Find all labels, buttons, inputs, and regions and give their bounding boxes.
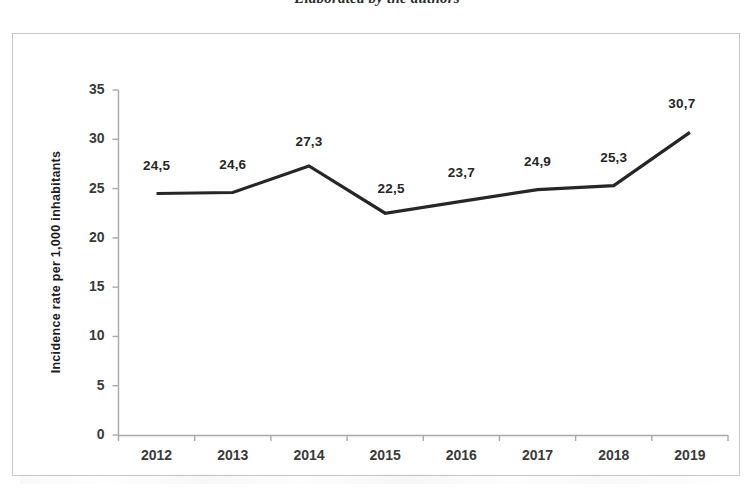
data-point-label: 24,5 bbox=[122, 158, 192, 173]
x-tick-label: 2012 bbox=[117, 447, 197, 463]
y-tick-label: 25 bbox=[65, 180, 105, 196]
y-tick-label: 15 bbox=[65, 278, 105, 294]
x-tick-label: 2014 bbox=[269, 447, 349, 463]
x-tick-label: 2013 bbox=[193, 447, 273, 463]
y-tick-label: 35 bbox=[65, 81, 105, 97]
data-point-label: 23,7 bbox=[426, 165, 496, 180]
data-point-label: 22,5 bbox=[356, 181, 426, 196]
x-tick-label: 2019 bbox=[650, 447, 730, 463]
x-tick-label: 2017 bbox=[498, 447, 578, 463]
y-tick-label: 0 bbox=[65, 426, 105, 442]
data-point-label: 25,3 bbox=[579, 150, 649, 165]
y-tick-label: 30 bbox=[65, 130, 105, 146]
y-axis-title: Incidence rate per 1,000 inhabitants bbox=[49, 112, 63, 412]
y-tick-label: 5 bbox=[65, 377, 105, 393]
data-series-line bbox=[157, 132, 690, 213]
chart-canvas bbox=[0, 0, 754, 492]
data-point-label: 24,9 bbox=[503, 154, 573, 169]
data-point-label: 24,6 bbox=[198, 157, 268, 172]
x-tick-label: 2018 bbox=[574, 447, 654, 463]
y-tick-label: 20 bbox=[65, 229, 105, 245]
x-tick-label: 2016 bbox=[421, 447, 501, 463]
data-point-label: 30,7 bbox=[647, 96, 717, 111]
data-point-label: 27,3 bbox=[274, 134, 344, 149]
y-axis-ticks bbox=[113, 90, 119, 435]
line-chart: Incidence rate per 1,000 inhabitants 051… bbox=[0, 0, 754, 492]
y-tick-label: 10 bbox=[65, 327, 105, 343]
x-tick-label: 2015 bbox=[345, 447, 425, 463]
